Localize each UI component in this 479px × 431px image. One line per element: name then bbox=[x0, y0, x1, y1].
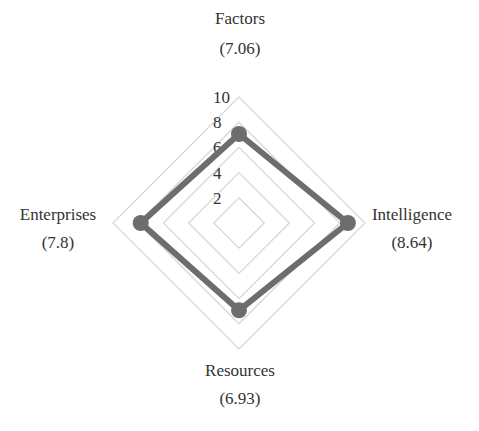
axis-label-enterprises: Enterprises bbox=[20, 205, 96, 224]
data-point bbox=[340, 215, 356, 231]
grid-ring bbox=[138, 122, 340, 324]
data-point bbox=[231, 302, 247, 318]
axis-value-factors: (7.06) bbox=[219, 39, 260, 58]
axis-value-enterprises: (7.8) bbox=[42, 233, 75, 252]
radar-chart: 246810 Factors (7.06) Intelligence (8.64… bbox=[0, 0, 479, 431]
grid-ring bbox=[163, 147, 314, 298]
axis-label-intelligence: Intelligence bbox=[372, 205, 452, 224]
data-series bbox=[133, 126, 356, 318]
axis-value-intelligence: (8.64) bbox=[391, 233, 432, 252]
radial-tick-label: 10 bbox=[213, 88, 230, 107]
grid-ring bbox=[189, 173, 290, 274]
radial-tick-label: 2 bbox=[213, 189, 222, 208]
axis-value-resources: (6.93) bbox=[219, 389, 260, 408]
radial-tick-label: 4 bbox=[213, 164, 222, 183]
data-point bbox=[231, 126, 247, 142]
axis-label-factors: Factors bbox=[215, 9, 265, 28]
radial-tick-label: 8 bbox=[213, 113, 222, 132]
data-point bbox=[133, 215, 149, 231]
series-line bbox=[141, 134, 348, 310]
axis-label-resources: Resources bbox=[205, 361, 275, 380]
